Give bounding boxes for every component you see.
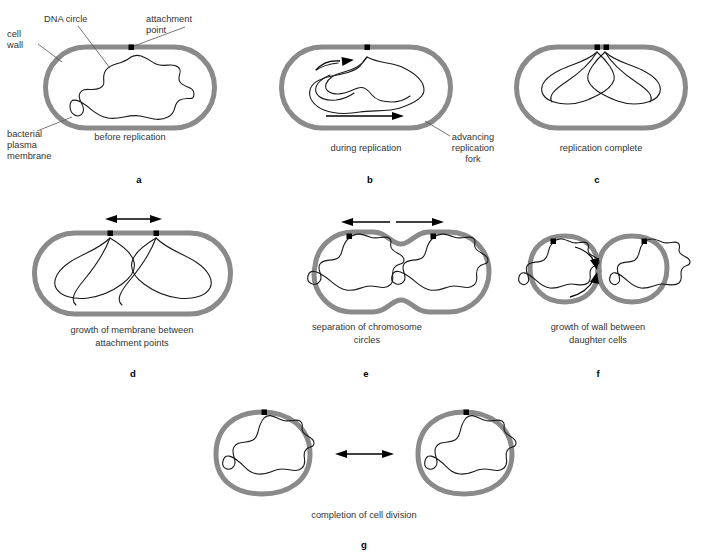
caption-g: completion of cell division	[311, 510, 416, 520]
dna-cross-d-left	[73, 238, 110, 305]
panel-letter-d: d	[130, 368, 136, 379]
attachment-point-b	[365, 45, 371, 51]
attachment-point-c-left	[595, 45, 601, 51]
separation-arrow-head-left-g	[335, 450, 347, 458]
dna-circle-f-right	[610, 239, 690, 288]
label-replication-fork-line-3: fork	[465, 154, 481, 164]
caption-d-line-1: growth of membrane between	[71, 325, 194, 335]
caption-e-line-2: circles	[354, 335, 381, 345]
dna-strand-b-inner	[326, 57, 410, 102]
membrane-growth-arrow-head-right-d	[150, 215, 162, 223]
label-attachment-point-line-2: point	[146, 25, 167, 35]
panel-letter-g: g	[361, 539, 367, 550]
attachment-point-e-left	[347, 234, 353, 240]
attachment-point-e-right	[431, 234, 437, 240]
panel-a: cell wall DNA circle attachment point ba…	[6, 14, 215, 185]
cell-wall-outline-f-left	[530, 236, 598, 302]
dna-cross-c-right	[605, 52, 651, 102]
panel-letter-a: a	[136, 174, 142, 185]
separation-arrow-right-head-e	[432, 218, 444, 226]
label-cell-wall-line-2: wall	[6, 40, 23, 50]
label-cell-wall-line-1: cell	[7, 29, 21, 39]
attachment-point-f-left	[551, 239, 557, 245]
label-plasma-membrane-line-3: membrane	[7, 151, 51, 161]
leader-replication-fork-b	[425, 121, 450, 136]
panel-f: growth of wall between daughter cells f	[519, 236, 690, 379]
caption-a: before replication	[94, 132, 165, 142]
caption-f-line-2: daughter cells	[569, 335, 627, 345]
caption-e-line-1: separation of chromosome	[312, 322, 422, 332]
label-replication-fork-line-1: advancing	[452, 132, 494, 142]
label-attachment-point-line-1: attachment	[146, 14, 192, 24]
attachment-point-g-right	[464, 410, 470, 416]
replication-arrow-left-head-b	[342, 56, 355, 66]
attachment-point-a	[129, 45, 135, 51]
dna-circle-c-left	[542, 52, 615, 104]
bacterial-cell-division-figure: cell wall DNA circle attachment point ba…	[0, 0, 706, 556]
panel-e: separation of chromosome circles e	[308, 218, 489, 379]
label-plasma-membrane-line-2: plasma	[7, 140, 38, 150]
panel-letter-c: c	[594, 174, 599, 185]
panel-g: completion of cell division g	[216, 410, 516, 551]
attachment-point-c-right	[604, 45, 610, 51]
replication-arrow-right-head-b	[392, 112, 404, 120]
dna-cross-c-left	[551, 52, 597, 102]
label-replication-fork-line-2: replication	[452, 143, 494, 153]
panel-letter-b: b	[367, 174, 373, 185]
caption-c: replication complete	[560, 143, 643, 153]
attachment-point-d-right	[154, 231, 160, 237]
label-plasma-membrane-line-1: bacterial	[7, 129, 42, 139]
leader-cell-wall-a	[38, 44, 62, 62]
panel-d: growth of membrane between attachment po…	[35, 215, 231, 379]
attachment-point-d-left	[108, 231, 114, 237]
cell-wall-outline-g-right	[418, 412, 512, 494]
attachment-point-g-left	[262, 410, 268, 416]
membrane-growth-arrow-head-left-d	[105, 215, 117, 223]
dna-circle-c-right	[588, 52, 661, 104]
cell-wall-outline-f-right	[599, 236, 667, 302]
caption-f-line-1: growth of wall between	[551, 322, 646, 332]
caption-b: during replication	[331, 143, 402, 153]
separation-arrow-head-right-g	[382, 450, 394, 458]
caption-d-line-2: attachment points	[95, 338, 169, 348]
label-dna-circle: DNA circle	[44, 14, 87, 24]
dna-circle-a	[70, 55, 194, 119]
separation-arrow-left-head-e	[341, 218, 353, 226]
cell-wall-outline-g-left	[216, 412, 310, 494]
panel-letter-e: e	[363, 368, 368, 379]
dna-circle-e-left	[308, 234, 404, 290]
attachment-point-f-right	[642, 239, 648, 245]
panel-b: advancing replication fork during replic…	[282, 45, 495, 186]
panel-letter-f: f	[596, 368, 600, 379]
panel-c: replication complete c	[517, 45, 686, 186]
dna-circle-d-right	[132, 238, 212, 299]
